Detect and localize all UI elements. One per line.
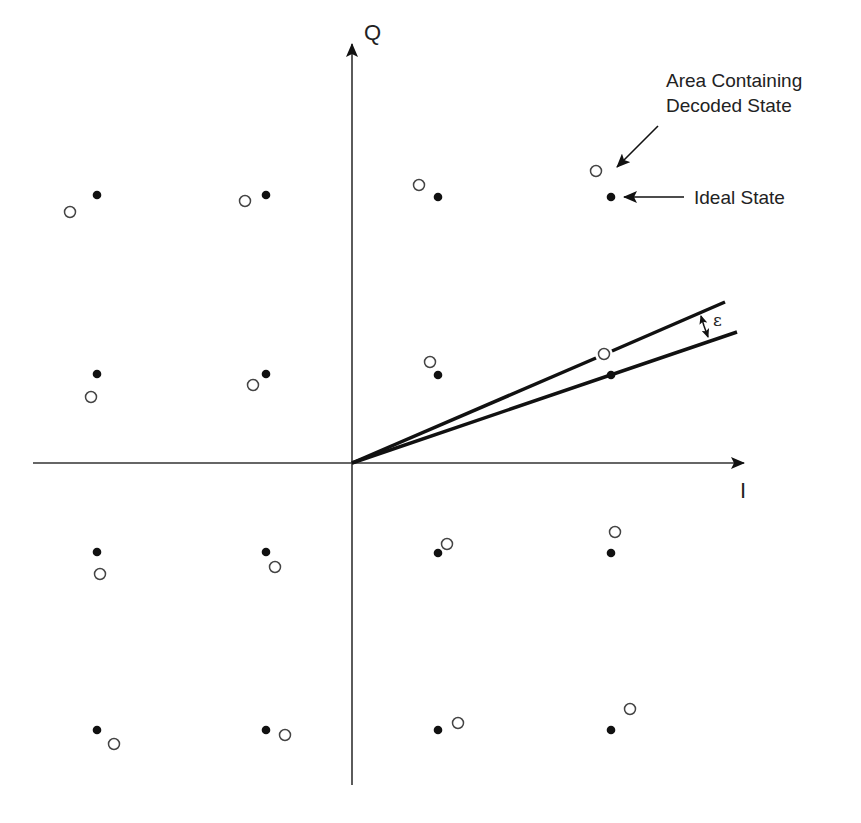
decoded-point xyxy=(610,527,621,538)
ideal-point xyxy=(93,370,102,379)
ideal-state-label: Ideal State xyxy=(694,185,785,210)
decoded-point xyxy=(425,357,436,368)
decoded-point xyxy=(270,562,281,573)
i-axis-label: I xyxy=(740,478,746,504)
ideal-point xyxy=(434,726,443,735)
decoded-point xyxy=(625,704,636,715)
decoded-point xyxy=(65,207,76,218)
epsilon-label: ε xyxy=(713,310,722,330)
ideal-point xyxy=(434,549,443,558)
epsilon-arrow xyxy=(704,326,708,337)
ideal-point xyxy=(262,370,271,379)
decoded-point xyxy=(248,380,259,391)
decoded-point xyxy=(414,180,425,191)
ideal-point xyxy=(607,549,616,558)
decoded-point xyxy=(109,739,120,750)
decoded-point xyxy=(591,166,602,177)
decoded-vector-line xyxy=(352,358,596,463)
ideal-point xyxy=(607,371,616,380)
ideal-point xyxy=(93,726,102,735)
decoded-area-label-line2: Decoded State xyxy=(666,93,802,118)
ideal-point xyxy=(93,548,102,557)
ideal-point xyxy=(262,548,271,557)
ideal-point xyxy=(262,726,271,735)
ideal-point xyxy=(434,193,443,202)
decoded-point xyxy=(599,349,610,360)
constellation-diagram xyxy=(0,0,861,823)
ideal-vector-line xyxy=(352,332,737,463)
phase-vectors xyxy=(352,302,737,463)
q-axis-label: Q xyxy=(364,20,381,46)
annotation-arrows xyxy=(617,126,684,197)
decoded-point xyxy=(86,392,97,403)
decoded-area-label: Area Containing Decoded State xyxy=(666,68,802,118)
ideal-point xyxy=(607,726,616,735)
ideal-point xyxy=(607,193,616,202)
decoded-point xyxy=(280,730,291,741)
epsilon-arrow xyxy=(701,316,704,326)
decoded-point xyxy=(442,539,453,550)
decoded-area-arrow xyxy=(617,126,658,167)
ideal-point xyxy=(93,191,102,200)
decoded-area-label-line1: Area Containing xyxy=(666,68,802,93)
axes xyxy=(33,44,744,785)
ideal-point xyxy=(434,371,443,380)
decoded-point xyxy=(240,196,251,207)
decoded-point xyxy=(95,569,106,580)
decoded-states xyxy=(65,166,636,750)
ideal-point xyxy=(262,191,271,200)
decoded-point xyxy=(453,718,464,729)
